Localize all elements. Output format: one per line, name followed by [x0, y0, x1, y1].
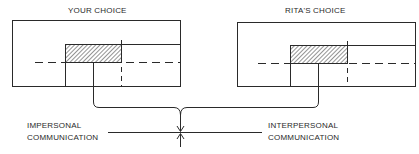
impersonal-label-line1: IMPERSONAL [27, 120, 81, 131]
your-choice-hatched-cell [66, 45, 122, 63]
connecting-brace [94, 87, 319, 116]
your-choice-grid [13, 21, 181, 87]
your-choice-title: YOUR CHOICE [68, 5, 127, 16]
communication-scale [108, 115, 262, 147]
interpersonal-label-line1: INTERPERSONAL [268, 120, 338, 131]
impersonal-label-line2: COMMUNICATION [27, 132, 98, 143]
ritas-choice-grid [238, 23, 416, 87]
interpersonal-label-line2: COMMUNICATION [268, 132, 339, 143]
ritas-choice-title: RITA'S CHOICE [285, 5, 345, 16]
ritas-choice-hatched-cell [291, 46, 348, 64]
